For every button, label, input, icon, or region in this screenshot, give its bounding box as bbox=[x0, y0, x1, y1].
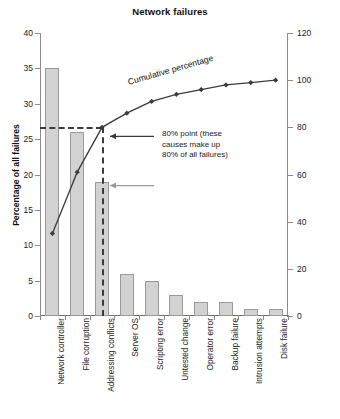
left-tick-label: 0 bbox=[28, 311, 33, 321]
plot-area: 0510152025303540 020406080100120 Percent… bbox=[40, 33, 288, 316]
left-tick-label: 20 bbox=[24, 170, 33, 180]
category-label: Operator error bbox=[205, 318, 215, 371]
left-tick-label: 30 bbox=[24, 99, 33, 109]
right-tick-label: 120 bbox=[297, 28, 311, 38]
eighty-percent-callout: 80% point (thesecauses make up80% of all… bbox=[162, 129, 228, 161]
right-tick-label: 0 bbox=[297, 311, 302, 321]
right-tick-label: 40 bbox=[297, 217, 306, 227]
left-tick-label: 5 bbox=[28, 276, 33, 286]
callout-line: 80% point (these bbox=[162, 129, 228, 140]
y-axis-title: Percentage of all failures bbox=[11, 124, 21, 226]
callout-line: causes make up bbox=[162, 140, 228, 151]
left-tick-label: 15 bbox=[24, 205, 33, 215]
right-tick-label: 100 bbox=[297, 75, 311, 85]
category-label: Addressing conflicts bbox=[106, 318, 116, 392]
left-tick-label: 40 bbox=[24, 28, 33, 38]
category-label: Network controller bbox=[56, 318, 66, 385]
category-label: File corruption bbox=[81, 318, 91, 371]
left-tick-label: 25 bbox=[24, 134, 33, 144]
category-label: Disk failure bbox=[279, 318, 289, 359]
right-tick-label: 60 bbox=[297, 170, 306, 180]
category-labels: Network controllerFile corruptionAddress… bbox=[40, 318, 288, 418]
right-tick-label: 80 bbox=[297, 122, 306, 132]
left-tick-label: 35 bbox=[24, 63, 33, 73]
category-label: Server OS bbox=[130, 318, 140, 357]
category-label: Backup failure bbox=[230, 318, 240, 371]
category-label: Untested change bbox=[180, 318, 190, 381]
left-tick-label: 10 bbox=[24, 240, 33, 250]
pareto-chart: Network failures 0510152025303540 020406… bbox=[0, 0, 340, 419]
right-tick-label: 20 bbox=[297, 264, 306, 274]
callout-line: 80% of all failures) bbox=[162, 150, 228, 161]
category-label: Scripting error bbox=[155, 318, 165, 370]
category-label: Intrusion attempts bbox=[254, 318, 264, 384]
chart-title: Network failures bbox=[0, 6, 340, 17]
